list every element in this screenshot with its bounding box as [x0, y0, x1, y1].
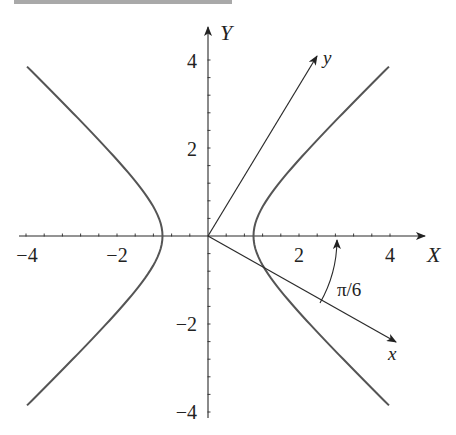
x-tick-label: −4 [16, 244, 37, 266]
y-tick-label: −2 [176, 313, 197, 335]
rotated-y-axis-label: y [321, 47, 332, 68]
rotated-x-axis-label: x [387, 343, 397, 364]
y-tick-label: −4 [176, 401, 197, 423]
x-tick-label: −2 [106, 244, 127, 266]
Y-axis-label: Y [220, 20, 235, 45]
angle-arc [320, 240, 337, 303]
angle-label: π/6 [337, 279, 361, 300]
x-tick-label: 2 [294, 244, 304, 266]
hyperbola-diagram: −4 −2 2 4 4 2 −2 −4 X Y x y π/6 [0, 0, 456, 435]
y-tick-label: 2 [187, 138, 197, 160]
X-axis-label: X [426, 242, 442, 267]
y-tick-label: 4 [187, 50, 197, 72]
x-tick-label: 4 [385, 244, 395, 266]
